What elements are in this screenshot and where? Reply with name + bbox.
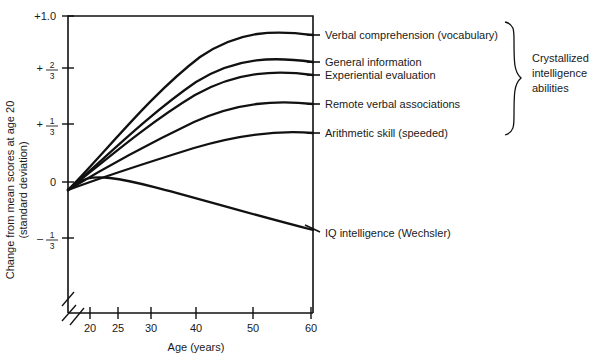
series-label-iq-intelligence: IQ intelligence (Wechsler) (325, 227, 451, 239)
plot-frame (68, 16, 313, 313)
curve-iq-intelligence (68, 177, 313, 230)
y-label-sign-two-thirds: + (37, 62, 43, 74)
y-label-sign-one-third: + (37, 118, 43, 130)
y-tick-label-zero: 0 (50, 176, 56, 188)
y-label-sign-neg-third: – (37, 232, 44, 244)
x-tick-label-60: 60 (305, 322, 317, 334)
curve-verbal-comprehension (68, 32, 313, 190)
x-tick-label-50: 50 (247, 322, 259, 334)
curve-experiential-evaluation (68, 73, 313, 190)
x-tick-label-30: 30 (145, 322, 157, 334)
group-label-line1: Crystallized (532, 52, 589, 64)
data-curves (68, 32, 313, 230)
chart-svg: +1.0 + 2 3 + 1 3 0 – 1 3 Change from mea… (0, 0, 592, 357)
series-label-general-information: General information (325, 56, 422, 68)
y-axis-title: Change from mean scores at age 20 (stand… (4, 101, 29, 280)
frame-outline (68, 16, 313, 313)
crystallized-group-brace (505, 22, 521, 135)
x-axis-title: Age (years) (168, 341, 225, 353)
brace-icon (505, 22, 521, 135)
series-label-verbal-comprehension: Verbal comprehension (vocabulary) (325, 29, 498, 41)
series-label-experiential-evaluation: Experiential evaluation (325, 69, 436, 81)
y-label-den-neg-third: 3 (50, 241, 55, 251)
x-tick-label-25: 25 (112, 322, 124, 334)
y-label-num-one-third: 1 (50, 116, 55, 126)
series-label-arithmetic-skill: Arithmetic skill (speeded) (325, 127, 448, 139)
x-tick-label-20: 20 (84, 322, 96, 334)
y-label-num-two-thirds: 2 (50, 60, 55, 70)
axis-break-marks (62, 292, 84, 325)
y-axis-title-line2: (standard deviation) (17, 141, 29, 238)
y-label-den-two-thirds: 3 (50, 71, 55, 81)
y-tick-label-neg-one-third: – 1 3 (37, 230, 58, 251)
chart-container: +1.0 + 2 3 + 1 3 0 – 1 3 Change from mea… (0, 0, 592, 357)
y-axis-title-line1: Change from mean scores at age 20 (4, 101, 16, 280)
group-label-line2: intelligence (532, 67, 587, 79)
y-label-den-one-third: 3 (50, 127, 55, 137)
y-tick-label-one-third: + 1 3 (37, 116, 58, 137)
y-tick-label-two-thirds: + 2 3 (37, 60, 58, 81)
group-label-line3: abilities (532, 82, 569, 94)
series-label-remote-verbal-associations: Remote verbal associations (325, 98, 461, 110)
y-label-num-neg-third: 1 (50, 230, 55, 240)
x-tick-label-40: 40 (190, 322, 202, 334)
y-tick-label-1-0: +1.0 (34, 10, 56, 22)
axis-break-icon (70, 308, 84, 325)
